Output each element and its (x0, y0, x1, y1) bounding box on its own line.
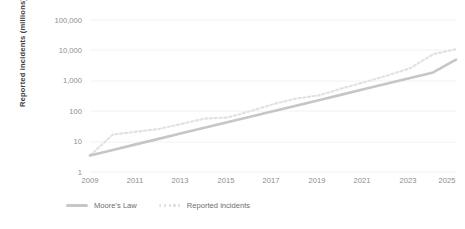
series-lines (90, 49, 456, 155)
gridlines (90, 20, 456, 172)
legend-label-moores-law: Moore's Law (94, 201, 137, 210)
x-tick-label: 2015 (218, 176, 235, 185)
x-tick-label: 2019 (309, 176, 326, 185)
chart-container: 100,000 10,000 1,000 100 10 1 Reported i… (0, 0, 465, 229)
legend-swatch-reported-incidents (159, 204, 181, 207)
legend-item-reported-incidents[interactable]: Reported incidents (159, 201, 250, 210)
x-tick-label: 2023 (400, 176, 417, 185)
legend-swatch-moores-law (66, 204, 88, 207)
plot-area (0, 0, 465, 229)
legend-label-reported-incidents: Reported incidents (187, 201, 250, 210)
line-moores-law (90, 60, 456, 156)
x-tick-label: 2011 (127, 176, 143, 185)
x-tick-label: 2017 (263, 176, 280, 185)
legend-item-moores-law[interactable]: Moore's Law (66, 201, 137, 210)
line-reported-incidents (90, 49, 456, 155)
x-tick-label: 2025 (439, 176, 456, 185)
chart-legend: Moore's Law Reported incidents (66, 201, 250, 210)
x-tick-label: 2021 (354, 176, 371, 185)
x-tick-label: 2013 (172, 176, 189, 185)
x-tick-label: 2009 (82, 176, 99, 185)
